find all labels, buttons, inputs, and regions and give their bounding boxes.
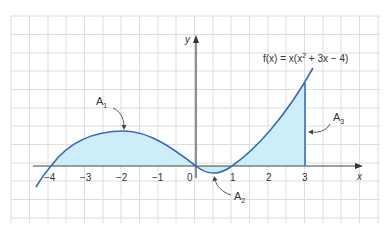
arrow-a1-icon (113, 108, 124, 127)
arrowhead-a3-icon (308, 130, 313, 135)
x-tick-label: −1 (152, 172, 164, 183)
x-tick-label: 1 (230, 172, 236, 183)
x-tick-label: −3 (80, 172, 92, 183)
y-axis-label: y (184, 34, 191, 45)
x-axis-label: x (356, 171, 363, 182)
x-tick-label: 3 (302, 172, 308, 183)
x-tick-label: 0 (187, 172, 193, 183)
arrow-a3-icon (311, 124, 330, 132)
area-label-a1: A1 (96, 95, 107, 109)
y-axis-arrow-icon (193, 35, 199, 43)
area-a1-fill (51, 131, 196, 166)
function-curve (36, 68, 313, 187)
function-label: f(x) = x(x2 + 3x − 4) (263, 52, 348, 64)
area-label-a3: A3 (333, 111, 344, 125)
x-tick-label: −4 (44, 172, 56, 183)
x-tick-label: 2 (266, 172, 272, 183)
arrowhead-a1-icon (122, 125, 127, 130)
area-label-a2: A2 (234, 190, 245, 204)
x-tick-label: −2 (116, 172, 128, 183)
area-under-curve-diagram: −4 −3 −2 −1 0 1 2 3 x y f(x) = x(x2 + 3x… (0, 0, 385, 237)
